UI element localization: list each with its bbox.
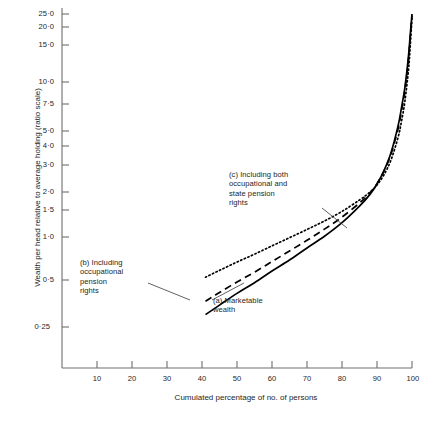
wealth-distribution-chart: 25·0 20·0 15·0 10·0 7·5 5·0 4·0 3·0 2·0 … [0,0,435,422]
y-tick-marks [62,14,69,327]
y-tick-label-20: 20·0 [20,22,54,31]
leader-line-b [148,283,190,300]
y-tick-label-0-25: 0·25 [16,322,50,331]
y-tick-label-15: 15·0 [20,40,54,49]
x-tick-label-90: 90 [365,374,389,383]
series-annotation-b: (b) Including occupational pension right… [80,258,146,296]
x-tick-label-40: 40 [190,374,214,383]
x-tick-label-60: 60 [260,374,284,383]
x-tick-label-30: 30 [155,374,179,383]
x-tick-label-20: 20 [120,374,144,383]
series-line-b [206,15,413,301]
series-annotation-a: (a) Marketable wealth [213,296,283,315]
series-line-c [206,14,413,315]
y-axis-title: Wealth per head relative to average hold… [33,78,42,298]
x-tick-label-80: 80 [330,374,354,383]
x-axis-title: Cumulated percentage of no. of persons [96,393,396,402]
x-tick-label-70: 70 [295,374,319,383]
series-annotation-c: (c) Including both occupational and stat… [229,170,321,208]
chart-canvas [0,0,435,422]
x-tick-marks [97,361,412,368]
x-tick-label-50: 50 [225,374,249,383]
x-tick-label-10: 10 [85,374,109,383]
y-tick-label-25: 25·0 [20,9,54,18]
x-tick-label-100: 100 [401,374,425,383]
data-series-layer [206,14,413,315]
